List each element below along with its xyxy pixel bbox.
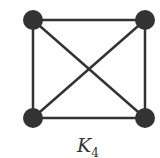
node-c: [23, 108, 43, 128]
node-b: [135, 10, 155, 30]
edges: [33, 20, 145, 118]
node-a: [23, 10, 43, 30]
node-d: [135, 108, 155, 128]
graph-label-main: K: [77, 134, 91, 156]
graph-label-subscript: 4: [91, 146, 99, 158]
graph-label: K4: [60, 134, 116, 158]
